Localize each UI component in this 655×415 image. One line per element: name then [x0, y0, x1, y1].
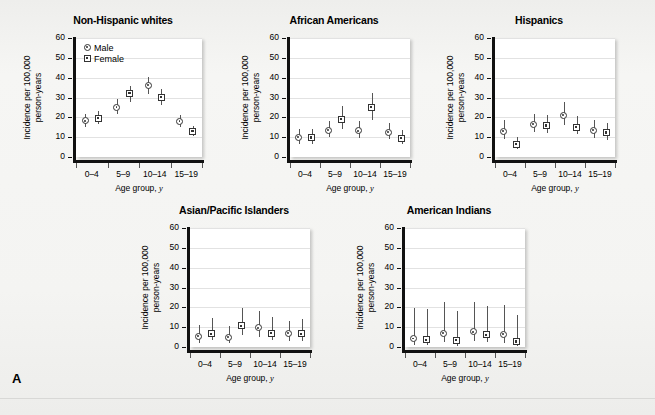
y-axis-tick-label: 30: [256, 92, 279, 102]
gridline: [76, 98, 202, 99]
legend-item-label: Female: [94, 54, 124, 64]
x-axis-label-unit: y: [159, 183, 163, 193]
y-axis-tick: [282, 38, 286, 39]
chart-panel-2: African AmericansIncidence per 100,000pe…: [238, 14, 424, 203]
y-axis-tick: [397, 288, 401, 289]
x-axis-tick: [525, 353, 526, 358]
data-point-male: [590, 127, 597, 134]
y-axis-tick-label: 10: [461, 131, 484, 141]
y-axis-label-line1: Incidence per 100,000: [22, 38, 33, 157]
x-axis-tick: [250, 353, 251, 358]
y-axis-tick: [487, 78, 491, 79]
y-axis-line: [492, 37, 495, 162]
data-point-male: [385, 129, 392, 136]
x-axis-tick: [525, 163, 526, 168]
gridline: [290, 58, 410, 59]
data-point-female: [543, 122, 550, 129]
x-axis-tick: [495, 163, 496, 168]
data-point-female: [483, 331, 490, 338]
x-axis-tick: [435, 353, 436, 358]
x-axis-tick: [555, 163, 556, 168]
plot-area: [290, 38, 410, 157]
x-axis-tick: [190, 353, 191, 358]
y-axis-tick: [68, 78, 72, 79]
gridline: [290, 38, 410, 39]
gridline: [495, 58, 615, 59]
data-point-male: [113, 104, 120, 111]
x-axis-label: Age group, y: [405, 373, 525, 383]
y-axis-label-line1: Incidence per 100,000: [355, 228, 366, 347]
gridline: [405, 248, 525, 249]
data-point-male: [530, 121, 537, 128]
data-point-female: [398, 135, 405, 142]
chart-panel-5: American IndiansIncidence per 100,000per…: [353, 204, 539, 393]
figure-separator-bottom: [0, 398, 655, 399]
data-point-male: [82, 117, 89, 124]
y-axis-tick: [182, 268, 186, 269]
y-axis-tick: [487, 58, 491, 59]
y-axis-tick: [487, 38, 491, 39]
data-point-female: [126, 90, 133, 97]
figure-panel-a: A Non-Hispanic whitesIncidence per 100,0…: [0, 0, 655, 415]
x-axis-tick-label: 15–19: [273, 359, 317, 369]
y-axis-tick: [182, 327, 186, 328]
data-point-male: [500, 128, 507, 135]
x-axis-tick: [465, 353, 466, 358]
y-axis-tick-label: 60: [42, 32, 65, 42]
data-point-female: [95, 115, 102, 122]
data-point-male: [410, 335, 417, 342]
x-axis-tick: [615, 163, 616, 168]
gridline: [190, 288, 310, 289]
x-axis-tick: [171, 163, 172, 168]
data-point-male: [145, 82, 152, 89]
y-axis-tick: [182, 307, 186, 308]
y-axis-tick-label: 10: [42, 131, 65, 141]
x-axis-label: Age group, y: [290, 183, 410, 193]
y-axis-tick-label: 50: [42, 52, 65, 62]
y-axis-tick-label: 50: [461, 52, 484, 62]
y-axis-tick-label: 10: [371, 321, 394, 331]
plot-area: [190, 228, 310, 347]
y-axis-tick: [487, 98, 491, 99]
gridline: [495, 38, 615, 39]
data-point-female: [238, 322, 245, 329]
data-point-female: [158, 94, 165, 101]
y-axis-tick: [182, 288, 186, 289]
data-point-male: [440, 330, 447, 337]
chart-title: American Indians: [359, 204, 539, 216]
y-axis-tick-label: 0: [461, 151, 484, 161]
x-axis-tick: [76, 163, 77, 168]
y-axis-line: [73, 37, 76, 162]
y-axis-tick: [397, 228, 401, 229]
y-axis-tick-label: 60: [461, 32, 484, 42]
gridline: [495, 98, 615, 99]
gridline: [190, 307, 310, 308]
data-point-female: [189, 128, 196, 135]
x-axis-label: Age group, y: [76, 183, 202, 193]
y-axis-tick-label: 30: [42, 92, 65, 102]
gridline: [190, 248, 310, 249]
x-axis-tick-label: 15–19: [164, 169, 208, 179]
x-axis-tick: [220, 353, 221, 358]
gridline: [190, 268, 310, 269]
y-axis-tick: [397, 268, 401, 269]
x-axis-tick: [139, 163, 140, 168]
y-axis-tick-label: 40: [156, 262, 179, 272]
x-axis-tick: [108, 163, 109, 168]
legend-item-female: Female: [84, 53, 124, 64]
y-axis-tick: [397, 347, 401, 348]
data-point-female: [453, 337, 460, 344]
data-point-male: [225, 334, 232, 341]
y-axis-tick: [487, 137, 491, 138]
data-point-female: [513, 141, 520, 148]
x-axis-tick-label: 15–19: [488, 359, 532, 369]
y-axis-tick-label: 60: [156, 222, 179, 232]
gridline: [290, 78, 410, 79]
data-point-male: [176, 118, 183, 125]
data-point-female: [308, 134, 315, 141]
x-axis-tick-label: 15–19: [578, 169, 622, 179]
chart-title: African Americans: [244, 14, 424, 26]
data-point-female: [423, 336, 430, 343]
gridline: [290, 98, 410, 99]
plot-area: [495, 38, 615, 157]
